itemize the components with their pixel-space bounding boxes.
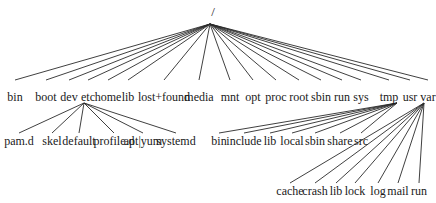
- node-lib: lib: [122, 91, 135, 103]
- node-home: home: [95, 91, 122, 103]
- edge-etc-to-pam.d: [19, 103, 84, 133]
- edge-usr-to-sbin: [315, 103, 397, 133]
- node-etc-skel: skel: [42, 135, 61, 147]
- node-opt: opt: [245, 91, 260, 103]
- node-var: var: [420, 91, 435, 103]
- node-usr-share: share: [327, 135, 352, 147]
- node-run: run: [334, 91, 350, 103]
- edge-root-to-home: [108, 24, 210, 80]
- node-sys: sys: [353, 91, 368, 103]
- node-etc-systemd: systemd: [156, 135, 195, 147]
- node-var-cache: cache: [276, 185, 303, 197]
- node-bin: bin: [7, 91, 22, 103]
- node-mnt: mnt: [221, 91, 240, 103]
- node-usr: usr: [403, 91, 418, 103]
- node-dev: dev: [60, 91, 77, 103]
- node-etc-default: default: [62, 135, 95, 147]
- node-usr-include: include: [226, 135, 261, 147]
- edge-usr-to-lib: [270, 103, 397, 133]
- root-node-label: /: [211, 6, 215, 18]
- node-boot: boot: [35, 91, 56, 103]
- node-var-lib: lib: [330, 185, 343, 197]
- edge-root-to-tmp: [210, 24, 389, 80]
- node-etc: etc: [81, 91, 95, 103]
- node-var-log: log: [370, 185, 385, 197]
- node-var-crash: crash: [302, 185, 327, 197]
- node-tmp: tmp: [380, 91, 399, 103]
- node-proc: proc: [265, 91, 286, 103]
- node-usr-local: local: [280, 135, 303, 147]
- edge-root-to-etc: [88, 24, 210, 80]
- node-usr-lib: lib: [264, 135, 277, 147]
- node-sbin: sbin: [311, 91, 331, 103]
- node-usr-bin: bin: [211, 135, 226, 147]
- node-usr-sbin: sbin: [305, 135, 325, 147]
- edge-root-to-media: [199, 24, 210, 80]
- edge-root-to-bin: [15, 24, 210, 80]
- node-media: media: [184, 91, 213, 103]
- node-var-mail: mail: [387, 185, 408, 197]
- node-var-lock: lock: [345, 185, 366, 197]
- edge-etc-to-systemd: [84, 103, 176, 133]
- edge-root-to-boot: [46, 24, 210, 80]
- edge-root-to-dev: [69, 24, 210, 80]
- node-etc-pam-d: pam.d: [4, 135, 34, 147]
- edge-root-to-usr: [210, 24, 410, 80]
- edge-root-to-run: [210, 24, 342, 80]
- node-lost-found: lost+found: [138, 91, 190, 103]
- edge-etc-to-apt|yum: [84, 103, 143, 133]
- edge-usr-to-include: [244, 103, 397, 133]
- edge-root-to-lost+found: [164, 24, 210, 80]
- node-var-run: run: [411, 185, 427, 197]
- edge-etc-to-skel: [52, 103, 84, 133]
- node-usr-src: src: [354, 135, 368, 147]
- node-root: root: [289, 91, 308, 103]
- edge-var-to-log: [378, 103, 424, 183]
